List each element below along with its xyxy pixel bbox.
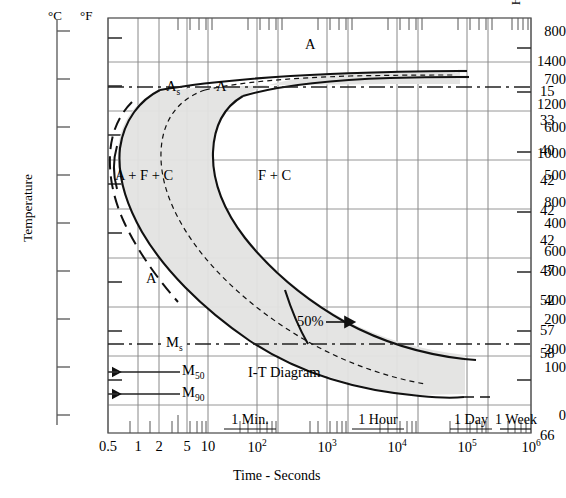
time-marker-1-week: 1 Week [495, 412, 537, 428]
label-austenite-lower: A [146, 270, 156, 287]
label-f-c-region: F + C [258, 167, 291, 184]
x-tick-1e6: 106 [516, 438, 546, 456]
time-marker-1-hour: 1 Hour [352, 412, 404, 428]
ttt-diagram-figure: Temperature °C °F Hardness - RC 800 700 … [0, 0, 566, 498]
label-austenite-top: A [305, 36, 315, 53]
label-it-diagram: I-T Diagram [248, 364, 321, 381]
x-tick-1e4: 104 [382, 438, 412, 456]
celsius-axis [57, 20, 70, 425]
label-as: As [166, 78, 180, 97]
label-a-f-c-region: A + F + C [115, 167, 173, 184]
label-fifty-percent: 50% [297, 313, 324, 330]
label-ms: Ms [164, 334, 185, 353]
x-tick-1e3: 103 [312, 438, 342, 456]
time-marker-1-min: 1 Min. [224, 412, 276, 428]
x-tick-2: 2 [144, 438, 174, 455]
x-tick-10: 10 [193, 438, 223, 455]
x-tick-1e5: 105 [452, 438, 482, 456]
x-tick-1e2: 102 [242, 438, 272, 456]
label-austenite-start: A [216, 78, 226, 95]
finish-curve-tail-lower [464, 359, 476, 360]
label-m50: M50 [182, 362, 204, 381]
x-axis-title: Time - Seconds [233, 468, 320, 484]
time-marker-1-day: 1 Day [450, 412, 492, 428]
label-m90: M90 [182, 384, 204, 403]
x-tick-0.5: 0.5 [93, 438, 123, 455]
